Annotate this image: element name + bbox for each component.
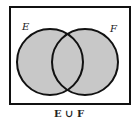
set-f-label: F [109, 23, 118, 34]
caption: E ∪ F [54, 108, 84, 119]
set-e-label: E [21, 21, 30, 32]
venn-diagram: E F E ∪ F [0, 0, 138, 120]
